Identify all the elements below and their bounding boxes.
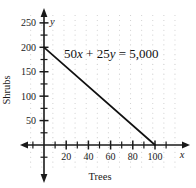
grid-dot — [75, 113, 76, 114]
grid-dot — [163, 137, 164, 138]
grid-dot — [163, 35, 164, 36]
grid-dot — [97, 25, 98, 26]
grid-dot — [174, 166, 175, 167]
grid-dot — [174, 127, 175, 128]
grid-dot — [97, 132, 98, 133]
grid-dot — [86, 25, 87, 26]
grid-dot — [141, 39, 142, 40]
grid-dot — [63, 35, 64, 36]
grid-dot — [30, 137, 31, 138]
grid-dot — [130, 113, 131, 114]
grid-dot — [174, 108, 175, 109]
grid-dot — [86, 103, 87, 104]
grid-dot — [97, 166, 98, 167]
grid-dot — [52, 79, 53, 80]
grid-dot — [119, 74, 120, 75]
grid-dot — [86, 113, 87, 114]
grid-dot — [108, 35, 109, 36]
grid-dot — [141, 25, 142, 26]
grid-dot — [174, 98, 175, 99]
grid-dot — [97, 20, 98, 21]
grid-dot — [163, 122, 164, 123]
grid-dot — [41, 49, 42, 50]
grid-dot — [130, 79, 131, 80]
grid-dot — [174, 103, 175, 104]
grid-dot — [63, 93, 64, 94]
grid-dot — [108, 142, 109, 143]
grid-dot — [52, 142, 53, 143]
grid-dot — [52, 93, 53, 94]
grid-dot — [75, 118, 76, 119]
grid-dot — [86, 64, 87, 65]
grid-dot — [97, 142, 98, 143]
grid-dot — [163, 113, 164, 114]
grid-dot — [163, 152, 164, 153]
y-tick-label: 250 — [21, 17, 36, 28]
grid-dot — [97, 157, 98, 158]
grid-dot — [63, 15, 64, 16]
grid-dot — [75, 98, 76, 99]
grid-dot — [174, 30, 175, 31]
grid-dot — [108, 113, 109, 114]
grid-dot — [141, 93, 142, 94]
grid-dot — [108, 166, 109, 167]
grid-dot — [97, 35, 98, 36]
grid-dot — [63, 127, 64, 128]
grid-dot — [141, 147, 142, 148]
grid-dot — [130, 15, 131, 16]
grid-dot — [63, 25, 64, 26]
grid-dot — [119, 127, 120, 128]
grid-dot — [141, 137, 142, 138]
y-axis-variable-label: y — [49, 16, 55, 27]
grid-dot — [86, 20, 87, 21]
grid-dot — [108, 118, 109, 119]
grid-dot — [163, 59, 164, 60]
grid-dot — [30, 35, 31, 36]
grid-dot — [130, 108, 131, 109]
grid-dot — [52, 39, 53, 40]
grid-dot — [86, 166, 87, 167]
grid-dot — [97, 113, 98, 114]
grid-dot — [141, 122, 142, 123]
grid-dot — [119, 118, 120, 119]
grid-dot — [63, 147, 64, 148]
grid-dot — [30, 64, 31, 65]
grid-dot — [163, 103, 164, 104]
grid-dot — [86, 15, 87, 16]
grid-dot — [141, 166, 142, 167]
grid-dot — [63, 79, 64, 80]
grid-dot — [52, 152, 53, 153]
grid-dot — [174, 147, 175, 148]
grid-dot — [30, 113, 31, 114]
grid-dot — [152, 147, 153, 148]
grid-dot — [41, 64, 42, 65]
grid-dot — [97, 83, 98, 84]
grid-dot — [30, 88, 31, 89]
grid-dot — [163, 83, 164, 84]
grid-dot — [130, 88, 131, 89]
grid-dot — [130, 132, 131, 133]
grid-dot — [119, 93, 120, 94]
grid-dot — [86, 69, 87, 70]
grid-dot — [152, 113, 153, 114]
grid-dot — [119, 69, 120, 70]
grid-dot — [75, 108, 76, 109]
coordinate-plane: 20406080100 50100150200250 y x Trees Shr… — [0, 0, 196, 188]
grid-dot — [75, 162, 76, 163]
grid-dot — [141, 118, 142, 119]
grid-dot — [163, 69, 164, 70]
grid-dot — [30, 157, 31, 158]
grid-dot — [152, 74, 153, 75]
grid-dot — [97, 122, 98, 123]
grid-dot — [163, 162, 164, 163]
grid-dot — [152, 15, 153, 16]
grid-dot — [75, 152, 76, 153]
y-tick-label: 150 — [21, 66, 36, 77]
grid-dot — [30, 166, 31, 167]
grid-dot — [52, 98, 53, 99]
grid-dot — [41, 30, 42, 31]
grid-dot — [174, 20, 175, 21]
grid-dot — [41, 74, 42, 75]
grid-dot — [52, 137, 53, 138]
grid-dot — [141, 79, 142, 80]
